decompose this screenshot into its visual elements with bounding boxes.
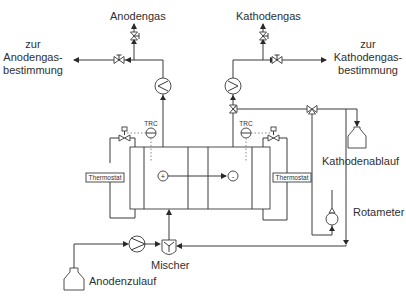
mixer-icon <box>162 240 176 255</box>
trc-left-label: TRC <box>144 120 158 127</box>
anode-gas-label: Anodengas <box>110 10 166 22</box>
cathode-gas-label: Kathodengas <box>236 10 301 22</box>
return-down-arrow-icon <box>343 240 349 245</box>
anode-analysis-valve-icon[interactable] <box>114 55 124 64</box>
return-arrow-icon <box>176 243 182 249</box>
anode-feed-vessel-icon <box>64 268 84 290</box>
cell-stack: + - <box>130 132 270 209</box>
anode-gas-section: Anodengas zur Anodengas- bestimmung <box>3 10 171 132</box>
anode-heat-exchanger-icon <box>155 78 171 94</box>
return-to-mixer-line <box>181 245 346 246</box>
cathode-analysis-label-1: zur <box>360 38 376 50</box>
mixer-label: Mischer <box>151 259 190 271</box>
right-control-valve-icon[interactable] <box>268 127 279 141</box>
plus-sign: + <box>161 172 166 181</box>
rotameter-label: Rotameter <box>353 206 405 218</box>
cathode-gas-valve-icon[interactable] <box>260 32 269 40</box>
feed-section: Mischer Anodenzulauf <box>64 209 190 290</box>
cathode-riser-valve-icon[interactable] <box>230 105 238 113</box>
process-flow-diagram: Anodengas zur Anodengas- bestimmung <box>0 0 406 297</box>
cathode-analysis-label-2: Kathodengas- <box>334 51 403 63</box>
left-control-valve-icon[interactable] <box>119 127 130 141</box>
cathode-heat-exchanger-icon <box>225 78 241 94</box>
anode-cooler-arrow-icon <box>160 95 166 100</box>
right-thermostat-label: Thermostat <box>276 174 309 181</box>
cathode-cooler-arrow-icon <box>230 95 236 100</box>
anode-feed-label: Anodenzulauf <box>89 275 157 287</box>
left-thermostat-supply-line <box>110 138 119 163</box>
cathode-drain-vessel-icon <box>348 127 366 148</box>
anode-analysis-label-1: zur <box>25 38 41 50</box>
cathode-analysis-valve-icon[interactable] <box>272 55 282 64</box>
left-thermostat-label: Thermostat <box>89 174 122 181</box>
rotameter-arrow-icon <box>329 226 335 231</box>
trc-right-label: TRC <box>239 120 253 127</box>
anode-horizontal-arrow-icon <box>125 57 131 63</box>
right-thermostat-to-cell-line <box>263 138 268 147</box>
rotameter-icon <box>326 208 338 225</box>
mixer-up-arrow-icon <box>166 209 172 215</box>
drain-splitter-valve-icon[interactable] <box>307 106 317 115</box>
right-thermostat-supply-line <box>279 138 287 173</box>
pump-out-arrow-icon <box>155 241 161 247</box>
cathode-drain-label: Kathodenablauf <box>322 155 400 167</box>
trc-left-icon <box>146 128 156 138</box>
trc-right-icon <box>241 128 251 138</box>
feed-line <box>74 244 124 270</box>
anode-gas-valve-icon[interactable] <box>131 32 140 40</box>
left-thermostat-to-cell-line <box>130 138 135 147</box>
cathode-analysis-label-3: bestimmung <box>338 64 398 76</box>
rotameter-bottom-line <box>312 225 332 235</box>
feed-arrow-icon <box>123 241 129 247</box>
pump-icon[interactable] <box>129 236 145 252</box>
anode-analysis-label-3: bestimmung <box>3 64 63 76</box>
anode-analysis-label-2: Anodengas- <box>3 51 63 63</box>
